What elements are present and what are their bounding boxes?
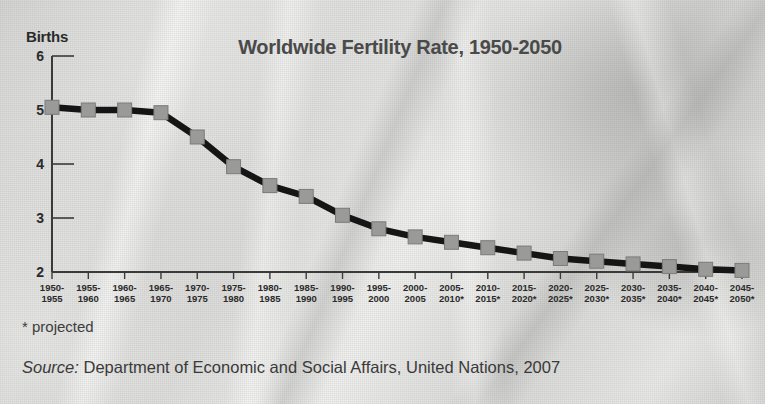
data-point-marker <box>444 235 458 249</box>
source-label: Source: <box>22 358 79 376</box>
data-point-marker <box>154 106 168 120</box>
data-point-marker <box>227 160 241 174</box>
y-axis-tick-label: 2 <box>22 264 44 280</box>
y-axis-tick-label: 4 <box>22 156 44 172</box>
fertility-chart-figure: Births Worldwide Fertility Rate, 1950-20… <box>0 0 765 404</box>
data-line <box>52 107 742 270</box>
data-point-marker <box>190 130 204 144</box>
chart-svg <box>0 0 765 404</box>
y-axis-tick-label: 6 <box>22 48 44 64</box>
data-point-marker <box>699 262 713 276</box>
source-detail: Department of Economic and Social Affair… <box>79 358 560 376</box>
data-point-marker <box>263 179 277 193</box>
data-point-marker <box>662 260 676 274</box>
data-point-marker <box>81 103 95 117</box>
x-axis-tick-label: 2045- 2050* <box>719 282 765 304</box>
y-axis-tick-label: 3 <box>22 210 44 226</box>
source-line: Source: Department of Economic and Socia… <box>22 358 560 377</box>
data-point-marker <box>336 208 350 222</box>
data-point-marker <box>590 254 604 268</box>
projected-footnote: * projected <box>22 318 94 335</box>
data-point-marker <box>299 189 313 203</box>
y-axis-tick-label: 5 <box>22 102 44 118</box>
data-point-marker <box>626 257 640 271</box>
data-point-marker <box>118 103 132 117</box>
data-point-marker <box>735 263 749 277</box>
plot-area: 234561950- 19551955- 19601960- 19651965-… <box>0 0 765 404</box>
data-point-marker <box>517 246 531 260</box>
data-point-marker <box>481 241 495 255</box>
data-point-marker <box>408 230 422 244</box>
data-point-marker <box>45 100 59 114</box>
data-point-marker <box>553 252 567 266</box>
data-point-marker <box>372 222 386 236</box>
